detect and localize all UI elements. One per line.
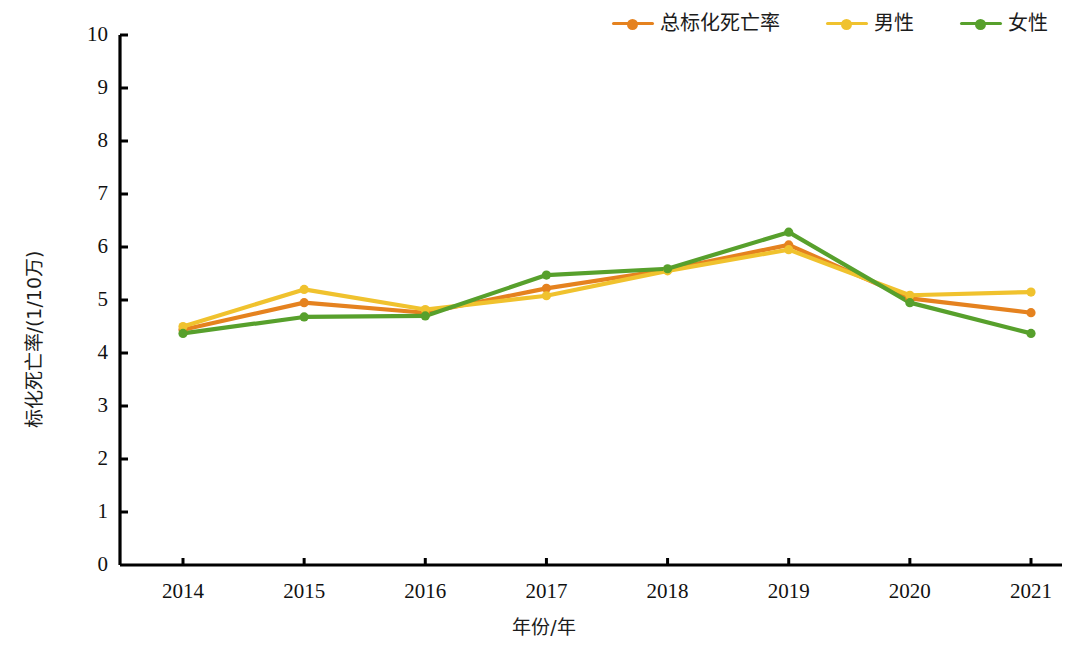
plot-area xyxy=(0,0,1088,649)
data-point-marker xyxy=(300,298,309,307)
chart-container: 总标化死亡率 男性 女性 012345678910 20142015201620… xyxy=(0,0,1088,649)
data-point-marker xyxy=(1026,308,1035,317)
data-point-marker xyxy=(300,312,309,321)
y-tick-label: 7 xyxy=(68,183,108,204)
y-tick-label: 9 xyxy=(68,77,108,98)
data-point-marker xyxy=(784,245,793,254)
data-point-marker xyxy=(784,228,793,237)
data-point-marker xyxy=(300,285,309,294)
x-tick-label: 2014 xyxy=(143,581,223,602)
data-point-marker xyxy=(542,291,551,300)
data-point-marker xyxy=(1026,287,1035,296)
y-tick-label: 6 xyxy=(68,236,108,257)
x-tick-label: 2019 xyxy=(749,581,829,602)
data-point-marker xyxy=(905,298,914,307)
data-point-marker xyxy=(542,270,551,279)
y-tick-label: 2 xyxy=(68,448,108,469)
x-tick-label: 2015 xyxy=(264,581,344,602)
x-tick-label: 2020 xyxy=(870,581,950,602)
x-tick-label: 2017 xyxy=(506,581,586,602)
y-tick-label: 4 xyxy=(68,342,108,363)
y-tick-label: 0 xyxy=(68,554,108,575)
y-tick-label: 3 xyxy=(68,395,108,416)
y-tick-label: 5 xyxy=(68,289,108,310)
data-point-marker xyxy=(178,329,187,338)
data-point-marker xyxy=(421,311,430,320)
data-point-marker xyxy=(1026,329,1035,338)
x-axis-title: 年份/年 xyxy=(0,618,1088,637)
y-tick-label: 8 xyxy=(68,130,108,151)
x-tick-label: 2021 xyxy=(991,581,1071,602)
x-tick-label: 2018 xyxy=(628,581,708,602)
y-axis-title: 标化死亡率/(1/10万) xyxy=(25,215,44,465)
data-point-marker xyxy=(663,264,672,273)
y-tick-label: 10 xyxy=(68,24,108,45)
x-tick-label: 2016 xyxy=(385,581,465,602)
data-series-lines xyxy=(178,228,1035,338)
y-tick-label: 1 xyxy=(68,501,108,522)
